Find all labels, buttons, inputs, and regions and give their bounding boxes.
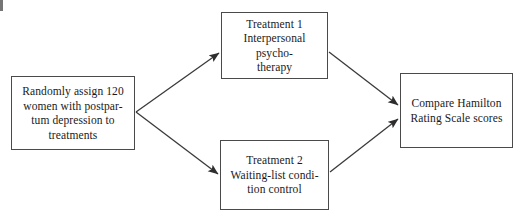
scan-artifact-mark bbox=[0, 0, 3, 11]
arrow-treatment-1-to-compare bbox=[329, 52, 398, 105]
arrow-assign-to-treatment-1 bbox=[136, 53, 219, 112]
randomly-assign-box: Randomly assign 120 women with postpar- … bbox=[11, 76, 135, 150]
arrow-treatment-2-to-compare bbox=[330, 119, 398, 172]
treatment-1-box-label: Treatment 1 Interpersonal psycho- therap… bbox=[222, 17, 327, 75]
treatment-2-box-label: Treatment 2 Waiting-list condi- tion con… bbox=[226, 153, 322, 197]
treatment-1-box: Treatment 1 Interpersonal psycho- therap… bbox=[221, 12, 328, 79]
compare-outcome-box: Compare Hamilton Rating Scale scores bbox=[400, 73, 513, 148]
randomly-assign-box-label: Randomly assign 120 women with postpar- … bbox=[18, 84, 128, 142]
experiment-flow-diagram: Randomly assign 120 women with postpar- … bbox=[0, 0, 528, 223]
treatment-2-box: Treatment 2 Waiting-list condi- tion con… bbox=[220, 140, 329, 210]
arrow-assign-to-treatment-2 bbox=[136, 112, 218, 174]
compare-outcome-box-label: Compare Hamilton Rating Scale scores bbox=[407, 96, 507, 125]
